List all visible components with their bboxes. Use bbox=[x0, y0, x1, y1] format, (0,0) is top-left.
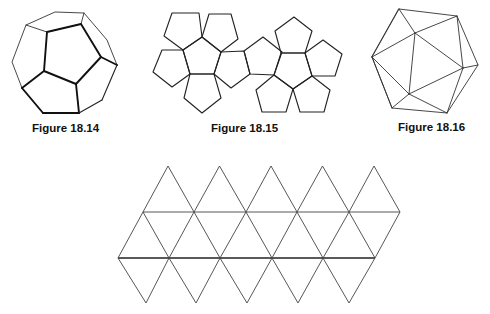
icosahedron-net-figure bbox=[0, 0, 490, 314]
icosahedron-net-drawing bbox=[118, 166, 400, 303]
